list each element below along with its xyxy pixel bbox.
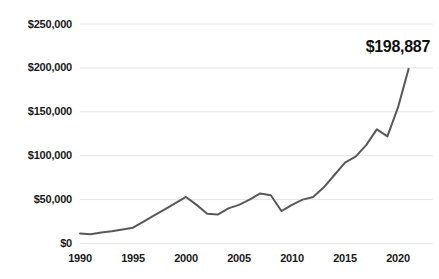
x-axis-tick-label: 2000 xyxy=(156,252,216,264)
x-axis-tick-label: 2005 xyxy=(209,252,269,264)
y-axis-tick-label: $50,000 xyxy=(0,194,72,205)
y-axis-tick-label: $0 xyxy=(0,238,72,249)
y-axis-tick-label: $100,000 xyxy=(0,150,72,161)
data-line-series xyxy=(80,69,409,234)
y-axis-tick-label: $150,000 xyxy=(0,106,72,117)
gridlines xyxy=(80,24,433,244)
x-axis-tick-label: 2015 xyxy=(315,252,375,264)
x-axis-tick-label: 2020 xyxy=(368,252,428,264)
x-axis-tick-label: 1990 xyxy=(50,252,110,264)
y-axis-tick-label: $250,000 xyxy=(0,19,72,30)
y-axis-tick-label: $200,000 xyxy=(0,62,72,73)
x-axis-tick-label: 1995 xyxy=(103,252,163,264)
x-axis-tick-label: 2010 xyxy=(262,252,322,264)
line-chart: $0$50,000$100,000$150,000$200,000$250,00… xyxy=(0,0,439,279)
end-value-annotation: $198,887 xyxy=(366,38,430,56)
